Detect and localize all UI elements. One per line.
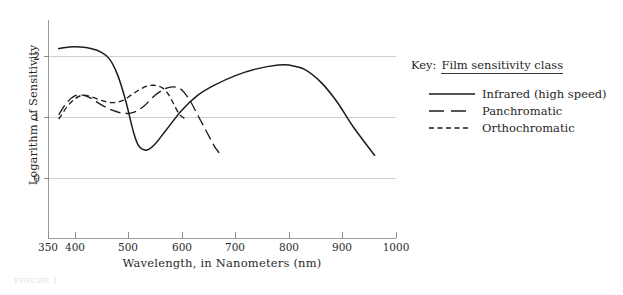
x-tick-label-400: 400 (55, 241, 95, 253)
gridline-y-1 (48, 117, 396, 118)
legend-swatch-long-dash-icon (429, 106, 475, 116)
plot-area (48, 20, 396, 238)
x-tick-mark-900 (342, 232, 343, 238)
gridline-y-0 (48, 178, 396, 179)
x-tick-mark-500 (128, 232, 129, 238)
y-tick-mark-2 (44, 56, 49, 57)
legend-entry-panchromatic: Panchromatic (429, 102, 619, 119)
figure-caption: FIGURE 1 (14, 276, 59, 285)
y-axis-title: Logarithm of Sensitivity (26, 20, 40, 210)
legend-key-label: Key: (411, 58, 436, 72)
gridline-y-2 (48, 56, 396, 57)
x-tick-label-900: 900 (322, 241, 362, 253)
legend: Key: Film sensitivity class Infrared (hi… (411, 58, 619, 136)
x-tick-mark-800 (289, 232, 290, 238)
x-tick-label-600: 600 (162, 241, 202, 253)
figure-root: 2 1 0 350 400 500 600 700 800 900 1000 L… (0, 0, 623, 295)
y-tick-mark-0 (44, 178, 49, 179)
y-tick-mark-1 (44, 117, 49, 118)
legend-label-orthochromatic: Orthochromatic (482, 121, 575, 135)
x-tick-mark-1000 (396, 232, 397, 238)
legend-title-row: Key: Film sensitivity class (411, 58, 619, 74)
x-tick-mark-600 (182, 232, 183, 238)
x-tick-mark-700 (235, 232, 236, 238)
x-tick-mark-350 (48, 232, 49, 238)
legend-label-panchromatic: Panchromatic (482, 104, 562, 118)
x-tick-label-800: 800 (269, 241, 309, 253)
x-tick-label-700: 700 (215, 241, 255, 253)
legend-label-infrared: Infrared (high speed) (482, 87, 607, 101)
y-axis-line (48, 20, 49, 238)
x-axis-title: Wavelength, in Nanometers (nm) (48, 256, 396, 270)
legend-swatch-short-dash-icon (429, 123, 475, 133)
x-tick-mark-400 (75, 232, 76, 238)
x-axis-line (48, 238, 396, 239)
legend-entry-orthochromatic: Orthochromatic (429, 119, 619, 136)
legend-entry-infrared: Infrared (high speed) (429, 85, 619, 102)
x-tick-label-1000: 1000 (376, 241, 416, 253)
legend-swatch-solid-icon (429, 89, 475, 99)
x-tick-label-500: 500 (108, 241, 148, 253)
legend-title: Film sensitivity class (441, 58, 563, 74)
